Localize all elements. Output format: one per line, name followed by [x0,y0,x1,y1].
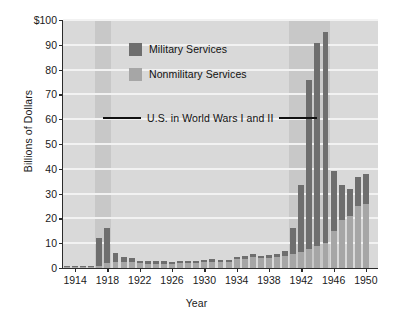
bar-segment-military [201,260,207,262]
bar-segment-nonmilitary [250,257,256,268]
bar-segment-military [242,256,248,258]
x-tick-mark [204,268,205,272]
bar-group [266,255,272,268]
bar-group [177,261,183,268]
legend-swatch [129,43,142,56]
bar-group [129,258,135,268]
bar-segment-military [274,254,280,257]
x-tick-label: 1946 [322,274,345,286]
y-tick-mark [59,144,63,145]
bar-segment-military [306,80,312,250]
bar-segment-nonmilitary [363,204,369,268]
bar-group [185,261,191,268]
bar-segment-military [161,261,167,263]
bar-group [258,256,264,268]
y-axis-title: Billions of Dollars [22,56,34,206]
bar-group [290,228,296,268]
bar-group [104,228,110,268]
bar-group [314,43,320,268]
bar-segment-nonmilitary [209,262,215,268]
bar-segment-nonmilitary [153,264,159,268]
bar-segment-nonmilitary [137,263,143,268]
bar-segment-military [250,254,256,256]
legend-label: Nonmilitary Services [149,68,247,80]
bar-segment-military [64,266,70,267]
bar-group [331,171,337,268]
bar-segment-military [88,266,94,267]
bar-segment-military [145,261,151,263]
y-tick-label: 10 [45,237,57,249]
x-tick-label: 1938 [257,274,280,286]
bar-segment-military [177,261,183,263]
bar-group [363,174,369,268]
bar-group [72,266,78,268]
bar-segment-military [185,261,191,263]
bar-segment-military [331,171,337,231]
bar-segment-nonmilitary [258,258,264,268]
y-tick-mark [59,45,63,46]
bar-segment-military [363,174,369,204]
bar-segment-nonmilitary [306,249,312,268]
x-tick-mark [301,268,302,272]
bar-segment-nonmilitary [331,231,337,268]
bar-segment-military [129,258,135,262]
bar-segment-military [234,257,240,259]
bar-segment-nonmilitary [185,263,191,268]
bar-group [282,251,288,268]
bar-group [306,80,312,268]
bar-segment-nonmilitary [145,264,151,268]
y-tick-label: 80 [45,64,57,76]
x-tick-label: 1934 [225,274,248,286]
bar-segment-military [314,43,320,246]
bar-segment-nonmilitary [323,243,329,268]
x-tick-label: 1914 [63,274,86,286]
bar-group [218,260,224,268]
bar-segment-nonmilitary [226,262,232,268]
bar-group [145,261,151,268]
bar-segment-nonmilitary [193,263,199,268]
bar-segment-military [96,238,102,265]
x-tick-label: 1922 [128,274,151,286]
bar-group [355,177,361,268]
y-tick-label: 40 [45,163,57,175]
x-tick-mark [366,268,367,272]
bar-segment-nonmilitary [242,259,248,268]
x-axis-title: Year [0,297,393,309]
bar-segment-military [153,261,159,263]
bar-segment-nonmilitary [290,254,296,268]
bar-group [347,189,353,268]
bar-segment-nonmilitary [121,262,127,268]
x-tick-mark [107,268,108,272]
x-tick-label: 1950 [354,274,377,286]
bar-segment-military [137,261,143,263]
y-tick-mark [59,268,63,269]
bar-segment-nonmilitary [72,267,78,268]
gridline [63,168,378,170]
x-tick-mark [75,268,76,272]
bar-segment-nonmilitary [234,259,240,268]
bar-segment-military [121,257,127,262]
bar-segment-military [226,260,232,262]
x-tick-mark [269,268,270,272]
bar-group [80,266,86,268]
y-tick-mark [59,169,63,170]
gridline [63,93,378,95]
bar-segment-military [104,228,110,263]
y-tick-label: 20 [45,212,57,224]
bar-segment-nonmilitary [274,257,280,268]
bar-segment-military [339,185,345,220]
bar-group [169,262,175,268]
bar-segment-military [209,259,215,261]
bar-group [298,185,304,268]
bar-group [234,257,240,268]
bar-segment-nonmilitary [177,263,183,268]
y-tick-label: 50 [45,138,57,150]
bar-segment-military [266,255,272,257]
legend-item: Military Services [129,42,247,56]
bar-segment-nonmilitary [266,258,272,268]
bar-segment-military [218,260,224,262]
bar-segment-nonmilitary [347,216,353,268]
bar-group [96,238,102,268]
y-tick-mark [59,20,63,21]
bar-group [153,261,159,268]
